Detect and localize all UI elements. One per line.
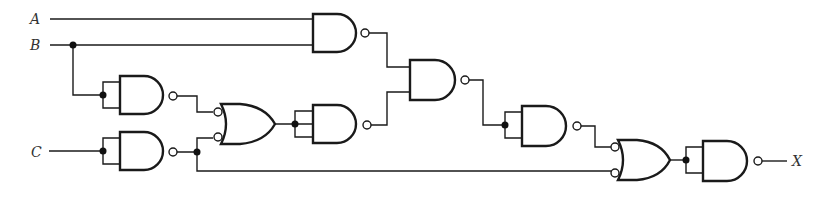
input-label-c: C [31, 144, 42, 160]
nand-gate-9 [683, 141, 763, 181]
logic-circuit-diagram: A B C X [0, 0, 831, 200]
or-gate-negated-inputs-1 [214, 104, 275, 144]
wire-g5-out [371, 92, 410, 125]
output-label-x: X [791, 153, 803, 169]
wire-b [50, 42, 313, 96]
wire-g2-out [177, 96, 213, 112]
nand-gate-3 [100, 132, 178, 170]
input-label-a: A [28, 11, 40, 27]
nand-gate-2 [100, 76, 178, 114]
nand-gate-6 [410, 60, 469, 100]
wire-g6-out [469, 80, 505, 125]
nand-gate-1 [313, 14, 369, 52]
input-label-b: B [29, 37, 40, 53]
junction-dot [70, 42, 77, 49]
or-gate-negated-inputs-2 [611, 140, 670, 180]
wire-g1-out [369, 33, 410, 67]
wire-g7-out [581, 126, 611, 147]
nand-gate-7 [502, 106, 582, 146]
